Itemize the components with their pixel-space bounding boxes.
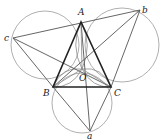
segment-aB [53,87,90,131]
geometry-diagram: AbcOBCa [0,0,161,140]
segment-cC [13,38,111,87]
segment-bC [111,10,140,87]
label-A: A [77,7,85,17]
label-a: a [87,131,92,140]
segment-aC [90,87,111,131]
label-O: O [79,73,87,83]
circle-AbC [85,8,159,82]
label-b: b [142,5,148,15]
segment-bB [53,10,140,87]
label-c: c [4,33,9,43]
construction-lines [13,10,140,131]
label-B: B [42,88,50,98]
segment-cB [13,38,53,87]
label-C: C [114,88,121,98]
circle-cAB [11,11,79,79]
